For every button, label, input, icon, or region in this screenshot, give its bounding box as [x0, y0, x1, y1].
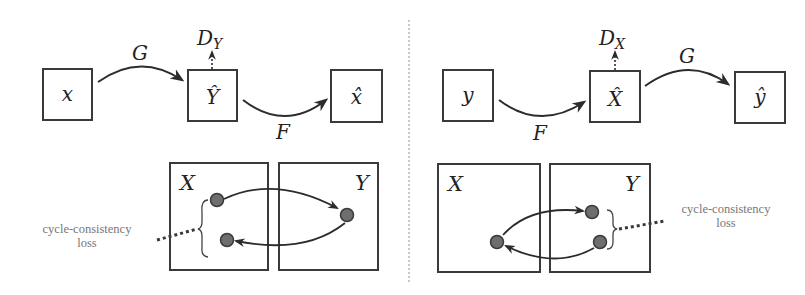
edge-G-arrow	[645, 70, 728, 86]
sample-x-dot	[211, 194, 224, 207]
right-top-flow: y X̂ ŷ F G DX	[443, 26, 785, 145]
node-y-hat-label: ŷ	[753, 85, 766, 109]
edge-G-label: G	[679, 44, 695, 68]
sample-y-dot	[594, 236, 607, 249]
reconstructed-y-dot	[586, 206, 599, 219]
loss-label-line1: cycle-consistency	[43, 222, 133, 236]
edge-G-arrow	[98, 66, 182, 82]
left-top-flow: x Ŷ x̂ G F DY	[43, 26, 382, 144]
domain-Y-label: Y	[625, 172, 641, 196]
edge-F-arrow	[243, 100, 326, 116]
node-y-label: y	[461, 83, 474, 107]
edge-F-label: F	[275, 120, 291, 144]
node-X-hat-label: X̂	[606, 87, 623, 111]
domain-X-label: X	[446, 172, 464, 196]
left-bottom-domains: X Y cycle-consistency loss	[43, 163, 378, 270]
edge-G-label: G	[132, 41, 148, 65]
loss-label-line2: loss	[77, 236, 97, 250]
cycle-gan-diagram: x Ŷ x̂ G F DY X Y cycle-consistency loss…	[0, 0, 805, 295]
node-Y-hat-label: Ŷ	[206, 85, 221, 109]
loss-label-line1: cycle-consistency	[682, 202, 772, 216]
edge-F-arrow	[499, 100, 584, 116]
node-x-hat-label: x̂	[351, 85, 362, 109]
discriminator-DX-label: DX	[598, 26, 626, 52]
reconstructed-x-dot	[221, 234, 234, 247]
node-x-label: x	[62, 82, 73, 106]
domain-Y-label: Y	[355, 171, 371, 195]
loss-label-line2: loss	[716, 216, 736, 230]
domain-X-label: X	[178, 171, 196, 195]
edge-F-label: F	[532, 121, 548, 145]
right-bottom-domains: X Y cycle-consistency loss	[438, 164, 771, 272]
discriminator-DY-label: DY	[196, 26, 224, 52]
mapped-y-dot	[341, 209, 354, 222]
mapped-x-dot	[491, 236, 504, 249]
